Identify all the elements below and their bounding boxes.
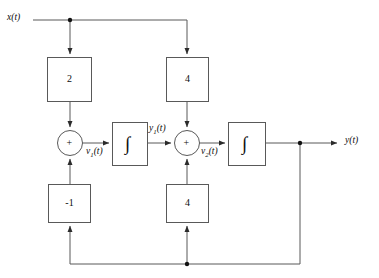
diagram-canvas (0, 0, 379, 278)
summer-left-sign: + (67, 138, 73, 148)
label-v1-signal: v1(t) (86, 147, 103, 159)
label-v1-suffix: (t) (94, 146, 103, 156)
gain-block-4-top-label: 4 (166, 74, 209, 84)
label-input-signal: x(t) (7, 13, 20, 23)
junction-dot-feedback (185, 262, 189, 266)
integrator-1-symbol: ∫ (125, 134, 130, 153)
label-output-signal: y(t) (345, 136, 358, 146)
integrator-2-symbol: ∫ (242, 134, 247, 153)
gain-block-2-label: 2 (47, 74, 92, 84)
label-y1-signal: y1(t) (149, 124, 166, 136)
label-v2-signal: v2(t) (201, 147, 218, 159)
gain-block-4-bottom-label: 4 (166, 198, 209, 208)
gain-block-minus1-label: -1 (48, 198, 91, 208)
summer-right-sign: + (184, 138, 190, 148)
block-diagram-figure: x(t) y(t) v1(t) y1(t) v2(t) 2 4 -1 4 ∫ ∫… (0, 0, 379, 278)
label-y1-suffix: (t) (157, 123, 166, 133)
junction-dot-input (68, 18, 72, 22)
junction-dot-output (298, 141, 302, 145)
label-v2-suffix: (t) (209, 146, 218, 156)
